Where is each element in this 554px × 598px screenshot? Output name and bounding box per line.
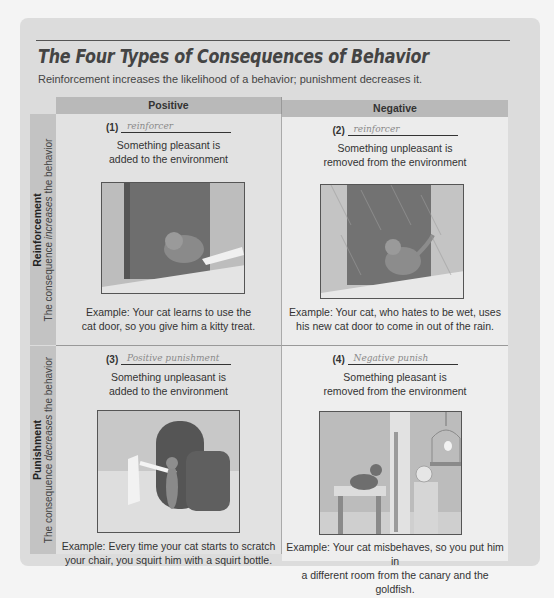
cell-positive-reinforcement: (1) reinforcer Something pleasant is add… bbox=[56, 114, 282, 346]
description: Something unpleasant is added to the env… bbox=[56, 370, 281, 398]
cell-negative-reinforcement: (2) reinforcer Something unpleasant is r… bbox=[282, 117, 508, 346]
column-header-positive: Positive bbox=[56, 97, 282, 114]
cat-door-treat-photo bbox=[101, 182, 245, 294]
figure-title: The Four Types of Consequences of Behavi… bbox=[38, 45, 429, 67]
figure-subtitle: Reinforcement increases the likelihood o… bbox=[38, 73, 422, 85]
cat-chair-squirt-photo bbox=[97, 410, 240, 533]
cell-negative-punishment: (4) Negative punish Something pleasant i… bbox=[282, 346, 508, 561]
cat-canary-goldfish-photo bbox=[319, 411, 462, 535]
row-label-punishment: Punishment The consequence decreases the… bbox=[30, 346, 56, 554]
row-title-reinforcement: Reinforcement bbox=[31, 138, 43, 321]
title-rule bbox=[36, 40, 510, 41]
answer-blank-3: (3) Positive punishment bbox=[56, 352, 281, 365]
handwritten-answer: Positive punishment bbox=[121, 352, 231, 365]
cell-positive-punishment: (3) Positive punishment Something unplea… bbox=[56, 346, 282, 554]
answer-blank-4: (4) Negative punish bbox=[282, 352, 508, 365]
description: Something pleasant is removed from the e… bbox=[282, 370, 508, 398]
description: Something pleasant is added to the envir… bbox=[56, 138, 281, 166]
handwritten-answer: Negative punish bbox=[348, 352, 458, 365]
example-text: Example: Your cat, who hates to be wet, … bbox=[282, 305, 508, 333]
row-title-punishment: Punishment bbox=[31, 357, 43, 543]
consequences-table: Positive Negative Reinforcement The cons… bbox=[30, 97, 508, 561]
row-label-reinforcement: Reinforcement The consequence increases … bbox=[30, 114, 56, 345]
answer-blank-2: (2) reinforcer bbox=[282, 123, 508, 136]
example-text: Example: Your cat misbehaves, so you put… bbox=[282, 540, 508, 596]
example-text: Example: Your cat learns to use the cat … bbox=[56, 305, 281, 333]
example-text: Example: Every time your cat starts to s… bbox=[56, 539, 281, 567]
page-figure: The Four Types of Consequences of Behavi… bbox=[20, 18, 540, 566]
description: Something unpleasant is removed from the… bbox=[282, 141, 508, 169]
handwritten-answer: reinforcer bbox=[348, 123, 458, 136]
column-header-negative: Negative bbox=[282, 100, 508, 117]
cat-door-rain-photo bbox=[320, 184, 464, 299]
handwritten-answer: reinforcer bbox=[121, 120, 231, 133]
answer-blank-1: (1) reinforcer bbox=[56, 120, 281, 133]
